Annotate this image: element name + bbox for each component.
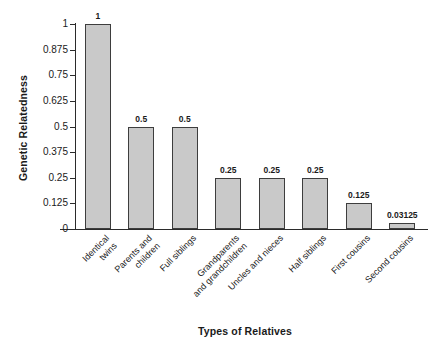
y-axis-tick-label-text: 1 [22,19,68,29]
bar-value-label: 0.25 [285,166,345,175]
y-axis-tick-label-text: 0.5 [22,122,68,132]
y-axis-tick-label: 0.875 [16,45,68,55]
y-axis-tick-label: 0.75 [16,70,68,80]
bar [302,178,328,229]
y-axis-tick-label: 0.5 [16,122,68,132]
bar [215,178,241,229]
y-axis-tick-label-text: 0.625 [22,96,68,106]
y-axis-tick-label: 0.25 [16,173,68,183]
y-axis-tick-label-text: 0.75 [22,70,68,80]
y-axis-tick-label: 0.125 [16,198,68,208]
y-axis-tick-label: 0.375 [16,147,68,157]
bar [259,178,285,229]
y-axis-tick-label-text: 0 [22,224,68,234]
y-axis-tick [70,229,76,230]
y-axis-tick-label-text: 0.125 [22,198,68,208]
bar-value-label: 0.5 [155,115,215,124]
bar [346,203,372,229]
bar [85,24,111,229]
y-axis-tick-label-text: 0.25 [22,173,68,183]
bar [389,223,415,229]
bar-value-label: 0.03125 [372,211,432,220]
x-axis-line [60,229,428,230]
bar [172,127,198,230]
y-axis-tick-label-text: 0.875 [22,45,68,55]
y-axis-tick-label: 0.625 [16,96,68,106]
bar [128,127,154,230]
bar-chart: Genetic Relatedness 00.1250.250.3750.50.… [0,0,433,350]
y-axis-tick-label: 1 [16,19,68,29]
bar-value-label: 0.125 [329,191,389,200]
bar-value-label: 1 [68,12,128,21]
y-axis-tick-label: 0 [16,224,68,234]
y-axis-tick-label-text: 0.375 [22,147,68,157]
x-axis-title: Types of Relatives [60,325,430,337]
